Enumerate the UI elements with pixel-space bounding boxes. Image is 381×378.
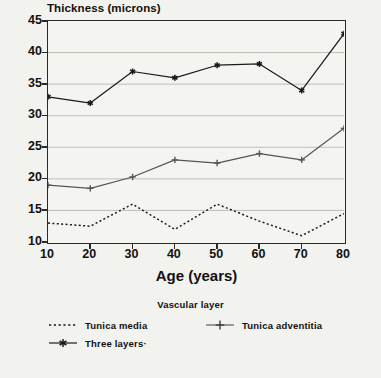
x-tick-label: 10 xyxy=(40,248,54,261)
y-tick-label: 40 xyxy=(16,45,42,58)
y-tick-label: 15 xyxy=(16,203,42,216)
y-tick-label: 10 xyxy=(16,235,42,248)
legend-label: Tunica adventitia xyxy=(242,320,322,331)
y-tick-label: 25 xyxy=(16,140,42,153)
legend-label: Three layers· xyxy=(85,338,147,349)
y-tick-mark xyxy=(42,20,47,22)
x-tick-label: 50 xyxy=(209,248,223,261)
series-line xyxy=(48,204,344,236)
y-tick-label: 30 xyxy=(16,108,42,121)
chart-canvas xyxy=(48,21,344,242)
y-tick-mark xyxy=(42,52,47,54)
x-tick-mark xyxy=(174,244,176,249)
x-tick-label: 20 xyxy=(82,248,96,261)
y-tick-label: 35 xyxy=(16,77,42,90)
legend-item-three-layers: Three layers· xyxy=(48,337,147,349)
y-tick-mark xyxy=(42,83,47,85)
asterisk-marker-icon xyxy=(48,337,78,349)
x-tick-mark xyxy=(89,244,91,249)
y-tick-mark xyxy=(42,178,47,180)
dotted-line-icon xyxy=(48,319,78,331)
data-point-marker xyxy=(256,150,262,156)
x-tick-label: 40 xyxy=(167,248,181,261)
x-axis-title: Age (years) xyxy=(47,267,346,284)
plot-area xyxy=(47,20,346,244)
data-point-marker xyxy=(48,182,51,188)
y-tick-label: 45 xyxy=(16,14,42,27)
x-tick-label: 80 xyxy=(336,248,350,261)
y-tick-label: 20 xyxy=(16,171,42,184)
x-tick-label: 30 xyxy=(125,248,139,261)
series-line xyxy=(48,128,344,188)
legend-title: Vascular layer xyxy=(0,299,381,310)
x-tick-mark xyxy=(258,244,260,249)
y-tick-mark xyxy=(42,146,47,148)
y-tick-mark xyxy=(42,209,47,211)
data-point-marker xyxy=(87,185,93,191)
x-tick-label: 60 xyxy=(251,248,265,261)
legend-item-tunica-media: Tunica media xyxy=(48,319,147,331)
chart-figure: Thickness (microns) 4540353025201510 102… xyxy=(0,0,381,378)
x-tick-mark xyxy=(301,244,303,249)
y-axis-tick-labels: 4540353025201510 xyxy=(12,20,42,244)
plus-marker-icon xyxy=(205,319,235,331)
data-point-marker xyxy=(214,160,220,166)
x-axis-tick-labels: 1020304050607080 xyxy=(47,248,346,266)
y-tick-mark xyxy=(42,241,47,243)
y-tick-mark xyxy=(42,115,47,117)
y-axis-title: Thickness (microns) xyxy=(47,2,161,14)
x-tick-mark xyxy=(132,244,134,249)
data-point-marker xyxy=(172,157,178,163)
legend-label: Tunica media xyxy=(85,320,147,331)
legend-item-tunica-adventitia: Tunica adventitia xyxy=(205,319,322,331)
x-tick-mark xyxy=(216,244,218,249)
x-tick-label: 70 xyxy=(294,248,308,261)
